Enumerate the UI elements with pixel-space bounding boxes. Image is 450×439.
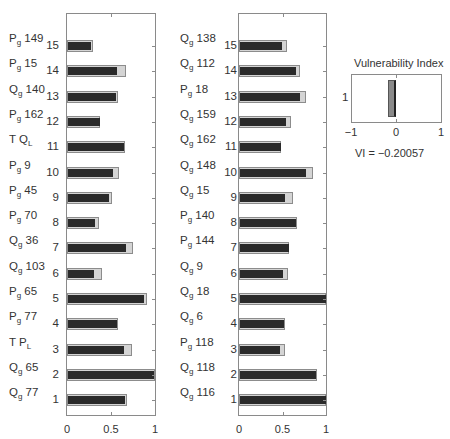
bar-inner [240,169,306,177]
row-label-id: 9 [21,159,31,171]
y-tick-mark [323,147,326,148]
y-tick-mark [152,46,155,47]
x-tick-label: 1 [152,423,158,435]
y-tick-mark [152,350,155,351]
x-tick-mark [111,14,112,17]
row-number: 2 [41,368,59,380]
row-label: Qg 36 [9,234,38,249]
row-label: Pg 15 [9,57,37,72]
y-tick-mark [323,173,326,174]
row-label-id: 6 [193,310,203,322]
y-tick-mark [152,248,155,249]
row-label-var: Q [180,133,189,145]
row-number: 15 [219,39,237,51]
row-label-id: 159 [193,108,215,120]
bar-inner [68,320,117,328]
y-tick-mark [152,400,155,401]
row-number: 1 [219,393,237,405]
y-tick-mark [323,274,326,275]
row-label: Pg 45 [9,184,37,199]
row-label-var: Q [9,260,18,272]
row-label-var: T P [9,336,27,348]
y-tick-mark [323,122,326,123]
bar-inner [240,219,296,227]
y-tick-mark [152,274,155,275]
row-number: 13 [41,90,59,102]
x-tick-mark [283,14,284,17]
vi-axes [351,74,442,123]
bar-inner [68,42,91,50]
bar-inner [68,118,100,126]
row-label: Pg 77 [9,310,37,325]
row-label-var: T Q [9,133,28,145]
row-number: 8 [41,216,59,228]
x-tick-label: 0 [236,423,242,435]
row-number: 15 [41,39,59,51]
row-label-id: 144 [192,234,214,246]
y-tick-mark [323,71,326,72]
bar-inner [68,270,94,278]
y-tick-mark [323,198,326,199]
row-number: 2 [219,368,237,380]
row-number: 12 [219,115,237,127]
row-label-sub: L [27,342,31,351]
row-label-var: Q [180,310,189,322]
row-label-var: P [180,83,188,95]
row-label: Pg 140 [180,209,215,224]
row-label-var: Q [180,159,189,171]
y-tick-mark [152,173,155,174]
row-label: Pg 149 [9,32,44,47]
row-label: Qg 103 [9,260,45,275]
row-label-var: Q [180,260,189,272]
y-tick-mark [152,375,155,376]
x-tick-label: 0.5 [275,423,290,435]
y-tick-mark [323,46,326,47]
row-number: 12 [41,115,59,127]
row-label: Qg 162 [180,133,216,148]
row-label-id: 18 [193,285,209,297]
row-number: 6 [41,267,59,279]
x-tick-mark [283,412,284,415]
y-tick-mark [323,223,326,224]
row-label-id: 118 [193,361,215,373]
vi-bar [388,80,396,117]
row-number: 9 [41,191,59,203]
bar-inner [68,67,117,75]
row-label-var: P [9,285,17,297]
bar-inner [240,320,284,328]
bar-inner [68,396,125,404]
row-label-id: 65 [22,361,38,373]
row-label: Pg 18 [180,83,208,98]
row-label-id: 112 [193,57,215,69]
row-number: 13 [219,90,237,102]
row-number: 4 [219,317,237,329]
row-label: Qg 116 [180,386,215,401]
y-tick-mark [323,350,326,351]
row-label-id: 9 [193,260,203,272]
row-number: 7 [41,241,59,253]
row-label: Qg 77 [9,386,38,401]
row-label-id: 116 [193,386,215,398]
row-label-id: 70 [21,209,37,221]
row-label: Qg 6 [180,310,203,325]
bar-inner [240,270,283,278]
row-label-id: 148 [193,159,215,171]
row-label-var: P [9,184,17,196]
row-number: 8 [219,216,237,228]
row-label-id: 15 [193,184,209,196]
row-label-var: P [9,32,17,44]
row-label: Qg 15 [180,184,209,199]
row-number: 14 [219,64,237,76]
bar-inner [68,93,116,101]
row-label: Qg 9 [180,260,203,275]
bar-inner [68,219,95,227]
vi-title: Vulnerability Index [354,57,443,69]
x-tick-label: 1 [323,423,329,435]
row-label-var: Q [9,361,18,373]
vi-xtick-0: 0 [393,126,399,138]
row-number: 9 [219,191,237,203]
chart-axes [66,13,156,416]
y-tick-mark [152,223,155,224]
x-tick-label: 0.5 [103,423,118,435]
bar-inner [240,93,300,101]
